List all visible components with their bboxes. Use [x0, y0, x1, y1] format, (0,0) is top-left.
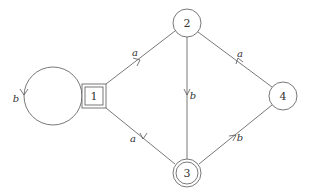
edge-3-4	[199, 105, 272, 164]
edge-label-1-1: b	[13, 93, 19, 104]
node-label-1: 1	[91, 90, 98, 103]
node-4: 4	[269, 82, 297, 110]
edge-1-2	[106, 31, 175, 84]
automaton-diagram: b a b a a b 1 2 3 4	[0, 0, 312, 193]
edge-4-2	[198, 32, 272, 87]
edge-label-1-2: a	[132, 47, 138, 58]
node-label-3: 3	[184, 167, 191, 180]
node-2: 2	[173, 9, 201, 37]
node-label-2: 2	[184, 17, 191, 30]
edge-label-4-2: a	[237, 48, 243, 59]
node-1: 1	[82, 84, 106, 108]
edge-label-3-4: b	[237, 132, 243, 143]
node-label-4: 4	[280, 90, 287, 103]
edge-label-3-1: a	[130, 133, 136, 144]
node-3: 3	[173, 159, 201, 187]
edge-3-1	[106, 108, 175, 164]
edge-1-1-loop	[24, 67, 82, 125]
arrow-head-icon	[229, 135, 236, 141]
edge-label-2-3: b	[190, 90, 196, 101]
